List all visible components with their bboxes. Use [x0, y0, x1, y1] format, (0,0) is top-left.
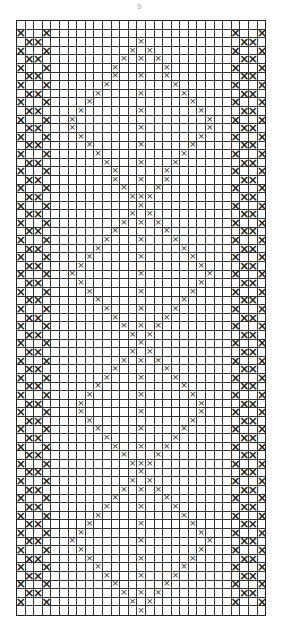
- stitch-cell-marked: [258, 322, 267, 331]
- stitch-cell-marked: [120, 486, 129, 495]
- stitch-cell: [180, 202, 189, 211]
- stitch-cell: [51, 245, 60, 254]
- stitch-cell: [197, 374, 206, 383]
- stitch-cell: [103, 400, 112, 409]
- stitch-cell: [26, 598, 35, 607]
- stitch-cell: [69, 357, 78, 366]
- stitch-cell: [86, 443, 95, 452]
- stitch-cell: [94, 107, 103, 116]
- stitch-cell: [206, 279, 215, 288]
- stitch-cell: [172, 555, 181, 564]
- stitch-cell: [112, 589, 121, 598]
- stitch-cell: [120, 116, 129, 125]
- stitch-cell: [34, 606, 43, 615]
- stitch-cell: [69, 202, 78, 211]
- stitch-cell: [60, 185, 69, 194]
- stitch-cell: [94, 73, 103, 82]
- stitch-cell: [206, 486, 215, 495]
- stitch-cell: [146, 124, 155, 133]
- stitch-cell: [215, 279, 224, 288]
- stitch-cell-marked: [120, 185, 129, 194]
- stitch-cell: [197, 572, 206, 581]
- stitch-cell: [51, 357, 60, 366]
- stitch-cell: [189, 563, 198, 572]
- stitch-cell: [258, 606, 267, 615]
- stitch-cell: [120, 297, 129, 306]
- stitch-cell: [146, 262, 155, 271]
- stitch-cell: [103, 322, 112, 331]
- stitch-cell-marked: [112, 176, 121, 185]
- stitch-cell-marked: [43, 236, 52, 245]
- stitch-cell: [77, 417, 86, 426]
- stitch-cell: [129, 314, 138, 323]
- stitch-cell-marked: [43, 202, 52, 211]
- stitch-cell-marked: [137, 90, 146, 99]
- stitch-cell: [69, 348, 78, 357]
- stitch-cell: [94, 167, 103, 176]
- stitch-cell: [86, 400, 95, 409]
- stitch-cell: [77, 297, 86, 306]
- stitch-cell: [86, 107, 95, 116]
- stitch-cell: [120, 374, 129, 383]
- stitch-cell: [189, 495, 198, 504]
- stitch-cell: [60, 546, 69, 555]
- stitch-cell-marked: [258, 219, 267, 228]
- stitch-cell: [120, 538, 129, 547]
- stitch-cell: [189, 55, 198, 64]
- stitch-cell: [103, 21, 112, 30]
- stitch-cell: [197, 606, 206, 615]
- stitch-cell: [197, 64, 206, 73]
- stitch-cell: [94, 451, 103, 460]
- stitch-cell: [112, 116, 121, 125]
- stitch-cell: [60, 340, 69, 349]
- stitch-cell: [51, 331, 60, 340]
- stitch-cell-marked: [258, 598, 267, 607]
- stitch-cell: [103, 176, 112, 185]
- stitch-cell-marked: [258, 133, 267, 142]
- stitch-cell: [206, 495, 215, 504]
- stitch-cell: [112, 512, 121, 521]
- stitch-cell: [155, 159, 164, 168]
- stitch-cell: [69, 150, 78, 159]
- stitch-cell: [103, 30, 112, 39]
- stitch-cell: [163, 451, 172, 460]
- stitch-cell: [60, 391, 69, 400]
- stitch-cell: [163, 512, 172, 521]
- stitch-cell: [69, 563, 78, 572]
- stitch-cell: [163, 236, 172, 245]
- stitch-cell: [120, 460, 129, 469]
- stitch-cell: [60, 503, 69, 512]
- stitch-cell: [112, 81, 121, 90]
- stitch-cell: [215, 443, 224, 452]
- stitch-cell-marked: [258, 150, 267, 159]
- stitch-cell: [51, 340, 60, 349]
- stitch-cell: [189, 572, 198, 581]
- stitch-cell: [112, 555, 121, 564]
- stitch-cell: [86, 469, 95, 478]
- stitch-cell: [215, 374, 224, 383]
- stitch-cell: [86, 305, 95, 314]
- stitch-cell: [51, 116, 60, 125]
- stitch-cell: [180, 520, 189, 529]
- stitch-cell: [155, 529, 164, 538]
- stitch-cell: [51, 400, 60, 409]
- stitch-cell: [197, 383, 206, 392]
- stitch-cell: [129, 271, 138, 280]
- stitch-cell: [86, 365, 95, 374]
- stitch-cell: [94, 262, 103, 271]
- stitch-cell: [206, 322, 215, 331]
- stitch-cell-marked: [258, 374, 267, 383]
- stitch-cell-marked: [69, 124, 78, 133]
- stitch-cell-marked: [163, 228, 172, 237]
- stitch-cell-marked: [112, 495, 121, 504]
- stitch-cell: [180, 477, 189, 486]
- stitch-cell-marked: [77, 408, 86, 417]
- stitch-cell-marked: [146, 47, 155, 56]
- stitch-cell: [51, 460, 60, 469]
- stitch-cell: [189, 589, 198, 598]
- stitch-cell: [215, 210, 224, 219]
- stitch-cell: [51, 219, 60, 228]
- stitch-cell: [69, 98, 78, 107]
- stitch-cell: [215, 581, 224, 590]
- stitch-cell: [129, 520, 138, 529]
